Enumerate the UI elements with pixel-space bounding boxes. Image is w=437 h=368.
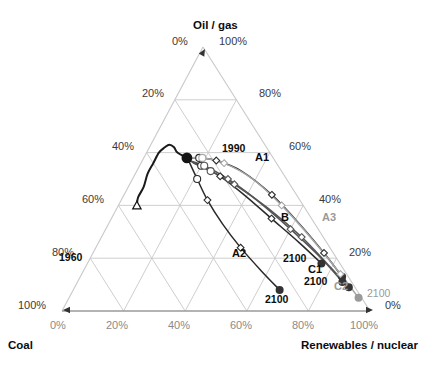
- tick-apex-left: 0%: [172, 36, 188, 47]
- decade-marker: [199, 154, 206, 161]
- decade-marker: [207, 168, 214, 175]
- tick-left-60: 60%: [82, 194, 104, 205]
- decade-marker: [204, 197, 211, 204]
- tick-right-60: 60%: [289, 141, 311, 152]
- ternary-plot-svg: [0, 0, 437, 368]
- label-endpoint-a3-2100: 2100: [367, 288, 390, 299]
- tick-bottom-100: 100%: [350, 320, 378, 331]
- axis-layer: [62, 47, 373, 313]
- label-scenario-a3: A3: [322, 212, 336, 223]
- decade-marker: [201, 162, 208, 169]
- axis-title-coal: Coal: [8, 340, 33, 352]
- label-endpoint-c1-2100: 2100: [304, 276, 327, 287]
- tick-bottom-40: 40%: [168, 320, 190, 331]
- tick-bottom-0: 0%: [50, 320, 66, 331]
- label-1960: 1960: [59, 252, 82, 263]
- series-line-a3: [187, 157, 359, 297]
- decade-marker: [213, 157, 220, 164]
- label-scenario-c1: C1: [308, 264, 322, 275]
- series-line-a2: [189, 161, 280, 290]
- label-endpoint-a2-2100: 2100: [265, 294, 288, 305]
- series-line-c2: [193, 163, 348, 287]
- decade-marker: [221, 160, 228, 167]
- tick-right-20: 20%: [349, 247, 371, 258]
- tick-bottom-20: 20%: [106, 320, 128, 331]
- series-line-a1: [187, 158, 342, 277]
- tick-left-20: 20%: [142, 88, 164, 99]
- tick-right-80: 80%: [259, 88, 281, 99]
- tick-right-40: 40%: [319, 194, 341, 205]
- label-1990: 1990: [222, 143, 245, 154]
- tick-left-40: 40%: [112, 141, 134, 152]
- axis-title-oil-gas: Oil / gas: [193, 20, 238, 32]
- decade-marker: [194, 176, 201, 183]
- label-scenario-c2: C2: [334, 281, 348, 292]
- series-line-b: [189, 161, 322, 264]
- tick-left-100: 100%: [18, 300, 46, 311]
- label-scenario-a2: A2: [232, 248, 246, 259]
- grid-layer: [90, 100, 336, 311]
- series-line-historical-1960-1990: [137, 145, 187, 206]
- tick-apex-right: 100%: [219, 36, 247, 47]
- tick-bottom-80: 80%: [292, 320, 314, 331]
- label-scenario-b: B: [281, 212, 289, 223]
- marker-endpoint-2100-a3: [355, 294, 363, 302]
- label-scenario-a1: A1: [255, 152, 269, 163]
- tick-right-0: 0%: [385, 300, 401, 311]
- marker-1990-branch-point: [182, 152, 193, 163]
- axis-title-renewables-nuclear: Renewables / nuclear: [301, 340, 418, 352]
- label-endpoint-b-2100: 2100: [283, 253, 306, 264]
- tick-bottom-60: 60%: [230, 320, 252, 331]
- ternary-chart: Oil / gas Coal Renewables / nuclear 0% 1…: [0, 0, 437, 368]
